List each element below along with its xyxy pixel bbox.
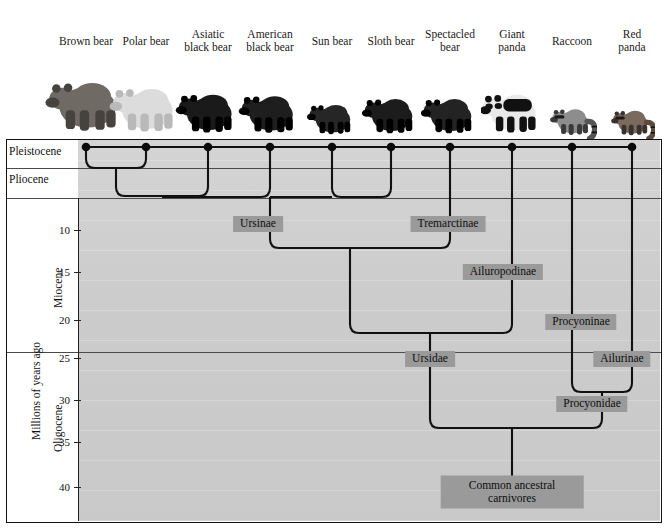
tip-node-red-panda <box>628 143 637 152</box>
branch-path <box>199 147 208 196</box>
clade-label-ailurinae: Ailurinae <box>593 351 650 367</box>
branch-path <box>332 147 341 197</box>
clade-label-ailuropodinae: Ailuropodinae <box>463 264 543 280</box>
branch-path <box>261 147 270 197</box>
tip-node-raccoon <box>568 143 577 152</box>
branch-path <box>503 147 512 333</box>
branch-path <box>441 147 450 248</box>
tip-node-polar-bear <box>142 143 151 152</box>
tip-node-sloth-bear <box>387 143 396 152</box>
clade-label-line1: Common ancestral <box>469 479 556 492</box>
branch-path <box>350 248 359 333</box>
branch-path <box>572 147 581 392</box>
clade-label-procyoninae: Procyoninae <box>545 314 616 330</box>
tree-branches <box>0 0 670 530</box>
branch-path <box>116 168 125 196</box>
branch-path <box>382 147 391 197</box>
clade-label-ursinae: Ursinae <box>233 216 283 232</box>
clade-label-tremarctinae: Tremarctinae <box>411 216 486 232</box>
phylogenetic-tree-figure: Brown bearPolar bearAsiaticblack bearAme… <box>0 0 670 530</box>
clade-label-ursidae: Ursidae <box>405 351 455 367</box>
tip-node-giant-panda <box>508 143 517 152</box>
clade-label-procyonidae: Procyonidae <box>556 396 627 412</box>
tip-node-asiatic-black-bear <box>204 143 213 152</box>
tip-node-brown-bear <box>82 143 91 152</box>
clade-label-line2: carnivores <box>469 492 556 505</box>
branch-path <box>430 333 439 428</box>
tip-node-sun-bear <box>328 143 337 152</box>
tip-node-spectacled-bear <box>446 143 455 152</box>
tip-node-american-black-bear <box>266 143 275 152</box>
clade-label-common-ancestral-carnivores: Common ancestralcarnivores <box>441 476 584 509</box>
